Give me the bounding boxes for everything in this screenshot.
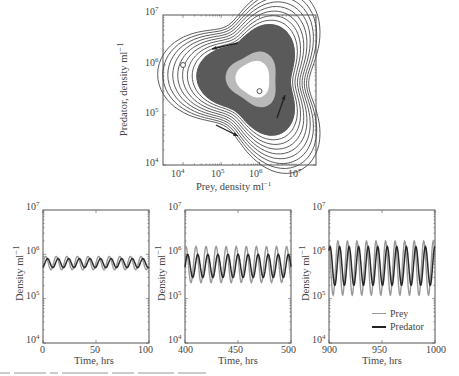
panel-b-ytick-7: 107 <box>168 201 182 212</box>
panel-a-frame <box>43 210 149 343</box>
panel-b-xlabel: Time, hrs <box>218 355 258 366</box>
panel-c-xtick-2: 1000 <box>426 344 446 355</box>
legend-item-prey: Prey <box>372 307 424 320</box>
panel-c-ytick-6: 106 <box>312 245 326 256</box>
panel-b-xtick-0: 400 <box>178 344 193 355</box>
panel-b-prey-line <box>185 247 291 283</box>
panel-b-ylabel: Density ml−1 <box>153 233 168 313</box>
legend-swatch-predator <box>372 326 386 328</box>
panel-c-xlabel: Time, hrs <box>362 355 402 366</box>
figure: 107 106 105 104 104 105 106 107 Prey, de… <box>0 0 459 376</box>
figure-caption-fragment <box>0 372 230 376</box>
panel-c-ytick-5: 105 <box>312 290 326 301</box>
legend-swatch-prey <box>372 313 386 314</box>
legend: Prey Predator <box>372 307 424 333</box>
panel-a-ytick-6: 106 <box>26 245 40 256</box>
panel-a-xtick-2: 100 <box>138 344 153 355</box>
panel-c-xtick-0: 900 <box>322 344 337 355</box>
panel-b-xtick-2: 500 <box>281 344 296 355</box>
panel-a-xtick-1: 50 <box>90 344 100 355</box>
panel-b-ytick-5: 105 <box>168 290 182 301</box>
panel-a-ytick-5: 105 <box>26 290 40 301</box>
panel-a-ylabel: Density ml−1 <box>11 233 26 313</box>
panel-b-xtick-1: 450 <box>228 344 243 355</box>
panel-c-xtick-1: 950 <box>372 344 387 355</box>
legend-item-predator: Predator <box>372 320 424 333</box>
legend-label-predator: Predator <box>390 321 424 332</box>
legend-label-prey: Prey <box>390 308 408 319</box>
panel-b-ytick-6: 106 <box>168 245 182 256</box>
panel-a-xtick-0: 0 <box>40 344 45 355</box>
panel-a-xlabel: Time, hrs <box>74 355 114 366</box>
panel-c-ytick-7: 107 <box>312 201 326 212</box>
panel-b-frame <box>185 210 291 343</box>
panel-a-ytick-4: 104 <box>26 334 40 345</box>
panel-a-ytick-7: 107 <box>26 201 40 212</box>
panel-c-ylabel: Density ml−1 <box>297 233 312 313</box>
